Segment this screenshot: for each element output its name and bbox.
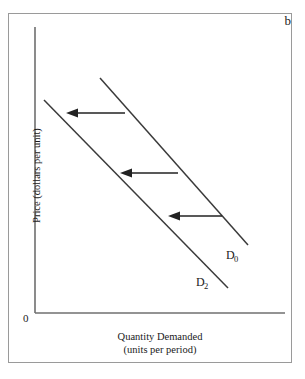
- x-axis-label-line1: Quantity Demanded: [118, 331, 203, 342]
- curve-label-d2: D 2: [196, 275, 208, 291]
- plot-area: D 0 D 2: [0, 0, 305, 379]
- shift-arrow-bottom: [168, 212, 222, 221]
- demand-curve-d0: [100, 78, 248, 245]
- origin-label: 0: [23, 313, 29, 324]
- curve-label-d0: D 0: [226, 248, 238, 264]
- curve-label-d0-subscript: 0: [234, 254, 238, 264]
- demand-shift-figure: b D 0 D 2: [0, 0, 305, 379]
- shift-arrow-top: [66, 109, 125, 118]
- x-axis-label-line2: (units per period): [35, 343, 285, 356]
- x-axis-label: Quantity Demanded (units per period): [35, 330, 285, 356]
- shift-arrow-middle: [120, 169, 178, 178]
- y-axis-label: Price (dollars per unit): [31, 76, 42, 276]
- demand-curve-d2: [44, 100, 228, 288]
- curve-label-d2-subscript: 2: [204, 281, 208, 291]
